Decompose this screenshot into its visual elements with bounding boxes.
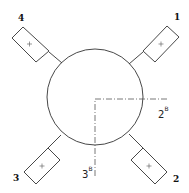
plus-icon	[40, 164, 45, 169]
port-4: 4	[12, 13, 62, 63]
port-1-label: 1	[174, 12, 180, 22]
port-4-label: 4	[18, 13, 24, 23]
port-3-label: 3	[13, 173, 19, 183]
port-3: 3	[13, 135, 61, 184]
reference-axes	[95, 99, 167, 176]
svg-text:2: 2	[158, 109, 164, 120]
axis-label-3B: 3 B	[82, 165, 93, 180]
plus-icon	[159, 42, 164, 47]
port-3-stub	[48, 135, 61, 148]
port-1: 1	[129, 12, 180, 64]
port-2-stub	[129, 134, 143, 148]
plus-icon	[27, 42, 32, 47]
port-2: 2	[129, 134, 179, 184]
port-1-stub	[129, 52, 143, 64]
port-4-stub	[49, 52, 62, 63]
axis-label-2B: 2 B	[158, 105, 169, 120]
svg-text:B: B	[89, 165, 93, 172]
svg-text:3: 3	[82, 169, 88, 180]
port-2-label: 2	[173, 174, 179, 184]
svg-text:B: B	[165, 105, 169, 112]
plus-icon	[147, 164, 152, 169]
port-4-box	[12, 27, 49, 62]
junction-diagram: 4 1 3 2 2 B 3 B	[0, 0, 189, 193]
